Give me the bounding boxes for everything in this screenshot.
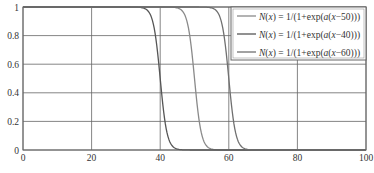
figure-caption-cropped	[170, 165, 320, 173]
x-tick-label: 60	[224, 153, 234, 163]
logistic-chart: 020406080100 00.20.40.60.81 N(x) = 1/(1+…	[0, 0, 374, 173]
legend-label: N(x) = 1/(1+exp(a(x−40)))	[258, 30, 360, 41]
y-tick-label: 0	[14, 146, 19, 156]
y-tick-label: 0.8	[7, 31, 19, 41]
legend-label: N(x) = 1/(1+exp(a(x−60)))	[258, 48, 360, 59]
legend-label: N(x) = 1/(1+exp(a(x−50)))	[258, 12, 360, 23]
y-tick-label: 0.4	[7, 88, 19, 98]
x-tick-label: 100	[359, 153, 374, 163]
x-tick-label: 40	[155, 153, 165, 163]
y-axis-ticks: 00.20.40.60.81	[7, 3, 19, 156]
x-tick-label: 0	[21, 153, 26, 163]
y-tick-label: 1	[14, 3, 19, 13]
x-tick-label: 80	[293, 153, 303, 163]
x-tick-label: 20	[87, 153, 97, 163]
x-axis-ticks: 020406080100	[21, 153, 374, 163]
legend: N(x) = 1/(1+exp(a(x−50)))N(x) = 1/(1+exp…	[231, 7, 366, 60]
y-tick-label: 0.2	[7, 117, 19, 127]
y-tick-label: 0.6	[7, 60, 19, 70]
